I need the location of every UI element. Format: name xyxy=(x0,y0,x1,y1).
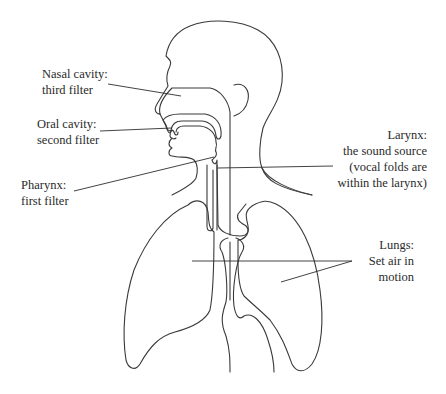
left-lung xyxy=(124,201,214,368)
oral-leader xyxy=(100,128,172,131)
lungs-line2: Set air in xyxy=(369,253,414,269)
trachea xyxy=(207,165,213,231)
right-lung xyxy=(238,201,322,371)
lungs-leader-right xyxy=(281,261,352,282)
esophagus xyxy=(217,165,248,236)
larynx-line1: Larynx: xyxy=(337,127,427,143)
larynx-leader xyxy=(218,166,333,168)
larynx-line3: (vocal folds are xyxy=(337,159,427,175)
larynx-line4: within the larynx) xyxy=(337,175,427,191)
pharynx-line1: Pharynx: xyxy=(21,177,69,193)
nasal-line1: Nasal cavity: xyxy=(42,66,108,82)
label-nasal-cavity: Nasal cavity: third filter xyxy=(42,66,108,98)
label-pharynx: Pharynx: first filter xyxy=(21,177,69,209)
pharynx-leader xyxy=(74,157,214,191)
bronchi xyxy=(220,238,274,372)
label-oral-cavity: Oral cavity: second filter xyxy=(37,116,99,148)
oral-line1: Oral cavity: xyxy=(37,116,99,132)
label-lungs: Lungs: Set air in motion xyxy=(369,237,414,285)
label-larynx: Larynx: the sound source (vocal folds ar… xyxy=(337,127,427,191)
nasal-line2: third filter xyxy=(42,82,108,98)
lungs-line1: Lungs: xyxy=(369,237,414,253)
lungs-line3: motion xyxy=(369,269,414,285)
ear xyxy=(234,84,248,116)
neck-back xyxy=(262,168,312,195)
larynx-line2: the sound source xyxy=(337,143,427,159)
pharynx-line2: first filter xyxy=(21,193,69,209)
lower-lip-chin xyxy=(169,130,197,195)
speech-anatomy-diagram: Nasal cavity: third filter Oral cavity: … xyxy=(0,0,446,394)
head-outline xyxy=(155,21,312,195)
oral-line2: second filter xyxy=(37,132,99,148)
